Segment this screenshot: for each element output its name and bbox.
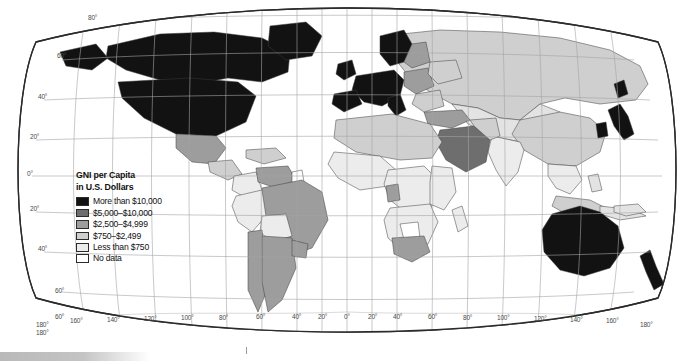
lat-label-20s: 20° bbox=[30, 206, 39, 213]
legend-item-2: $2,500–$4,999 bbox=[76, 219, 196, 230]
legend-swatch-icon bbox=[76, 243, 89, 252]
lon-label-160e: 160° bbox=[606, 318, 619, 325]
legend-label: $750–$2,499 bbox=[93, 232, 141, 241]
lon-label-140w: 140° bbox=[107, 317, 120, 324]
lon-label-120w: 120° bbox=[144, 316, 157, 323]
region-south-korea bbox=[596, 122, 608, 138]
map-canvas: 80° 60° 40° 20° 0° 20° 40° 60° 180° 160°… bbox=[0, 0, 694, 340]
legend-label: No data bbox=[93, 254, 122, 263]
lon-label-80w: 80° bbox=[219, 315, 228, 322]
lon-label-40w: 40° bbox=[292, 314, 301, 321]
legend-item-4: Less than $750 bbox=[76, 242, 196, 253]
corner-label-60s: 60° bbox=[55, 314, 64, 321]
page-edge-tick bbox=[246, 347, 247, 354]
lat-label-80n: 80° bbox=[88, 15, 97, 22]
lon-label-0: 0° bbox=[344, 314, 350, 321]
legend-swatch-icon bbox=[76, 197, 89, 206]
legend-swatch-icon bbox=[76, 209, 89, 218]
corner-label-180: 180° bbox=[36, 330, 49, 337]
lon-label-20w: 20° bbox=[318, 314, 327, 321]
region-gabon bbox=[386, 184, 400, 202]
lon-label-120e: 120° bbox=[534, 316, 547, 323]
legend-label: $5,000–$10,000 bbox=[93, 209, 152, 218]
legend-item-3: $750–$2,499 bbox=[76, 230, 196, 241]
lat-label-60s: 60° bbox=[55, 288, 64, 295]
legend-title-line2: in U.S. Dollars bbox=[76, 182, 196, 194]
lat-label-60n: 60° bbox=[57, 53, 66, 60]
legend-item-5: No data bbox=[76, 253, 196, 264]
map-legend: GNI per Capita in U.S. Dollars More than… bbox=[76, 170, 196, 264]
lon-label-180e: 180° bbox=[640, 322, 653, 329]
lat-label-20n: 20° bbox=[30, 134, 39, 141]
legend-rows: More than $10,000 $5,000–$10,000 $2,500–… bbox=[76, 196, 196, 264]
lon-label-20e: 20° bbox=[368, 314, 377, 321]
legend-label: Less than $750 bbox=[93, 243, 149, 252]
legend-label: More than $10,000 bbox=[93, 197, 162, 206]
lon-label-180w: 180° bbox=[36, 322, 49, 329]
lon-label-40e: 40° bbox=[393, 314, 402, 321]
lon-label-160w: 160° bbox=[70, 318, 83, 325]
world-map-figure: 80° 60° 40° 20° 0° 20° 40° 60° 180° 160°… bbox=[0, 0, 694, 364]
lat-label-40n: 40° bbox=[38, 94, 47, 101]
lon-label-100w: 100° bbox=[181, 315, 194, 322]
lat-label-40s: 40° bbox=[38, 246, 47, 253]
lon-label-100e: 100° bbox=[497, 315, 510, 322]
lon-label-60e: 60° bbox=[428, 314, 437, 321]
legend-swatch-icon bbox=[76, 232, 89, 241]
legend-item-0: More than $10,000 bbox=[76, 196, 196, 207]
legend-title-line1: GNI per Capita bbox=[76, 170, 196, 182]
lon-label-140e: 140° bbox=[570, 317, 583, 324]
lon-label-60w: 60° bbox=[256, 314, 265, 321]
lat-label-equator: 0° bbox=[27, 171, 33, 178]
page-edge-strip bbox=[0, 352, 150, 361]
legend-label: $2,500–$4,999 bbox=[93, 220, 148, 229]
legend-swatch-icon bbox=[76, 254, 89, 263]
legend-item-1: $5,000–$10,000 bbox=[76, 207, 196, 218]
legend-swatch-icon bbox=[76, 220, 89, 229]
lon-label-80e: 80° bbox=[463, 315, 472, 322]
